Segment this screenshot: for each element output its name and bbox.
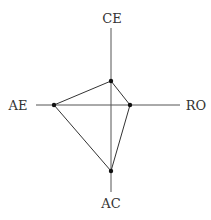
axis-label-ce: CE	[102, 11, 121, 26]
axis-label-ac: AC	[100, 196, 120, 211]
point-ae	[52, 103, 56, 107]
axis-label-ae: AE	[8, 98, 28, 113]
radar-diagram: CE RO AC AE	[0, 0, 211, 220]
point-ro	[128, 103, 132, 107]
axis-label-ro: RO	[186, 98, 206, 113]
point-ac	[109, 169, 113, 173]
profile-polygon	[54, 81, 130, 171]
point-ce	[109, 79, 113, 83]
